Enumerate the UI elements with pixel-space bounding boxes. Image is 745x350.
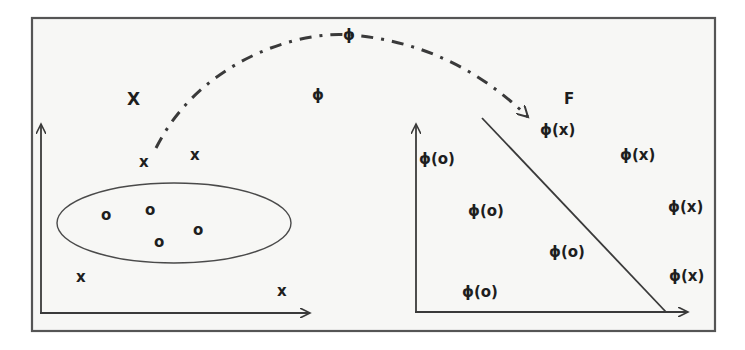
- phi-x-point: ϕ(x): [620, 146, 655, 164]
- input-space-label: X: [127, 89, 140, 109]
- phi-o-point: ϕ(o): [549, 243, 585, 261]
- diagram-frame: [32, 18, 715, 331]
- phi-o-point: ϕ(o): [468, 202, 504, 220]
- phi-x-point: ϕ(x): [668, 198, 703, 216]
- phi-x-point: ϕ(x): [669, 267, 704, 285]
- o-point: o: [145, 201, 155, 219]
- x-point: x: [190, 146, 200, 164]
- phi-o-point: ϕ(o): [462, 283, 498, 301]
- x-point: x: [277, 282, 287, 300]
- phi-o-point: ϕ(o): [419, 150, 455, 168]
- o-point: o: [101, 206, 111, 224]
- phi-label: ϕ: [312, 86, 324, 104]
- x-point: x: [139, 153, 149, 171]
- x-point: x: [76, 268, 86, 286]
- kernel-mapping-diagram: X x x x x o o o o ϕ ϕ F ϕ(x) ϕ(x) ϕ(x) ϕ…: [0, 0, 745, 350]
- phi-x-point: ϕ(x): [540, 121, 575, 139]
- feature-space-label: F: [564, 90, 574, 108]
- phi-label: ϕ: [343, 26, 355, 44]
- o-point: o: [154, 233, 164, 251]
- o-point: o: [193, 221, 203, 239]
